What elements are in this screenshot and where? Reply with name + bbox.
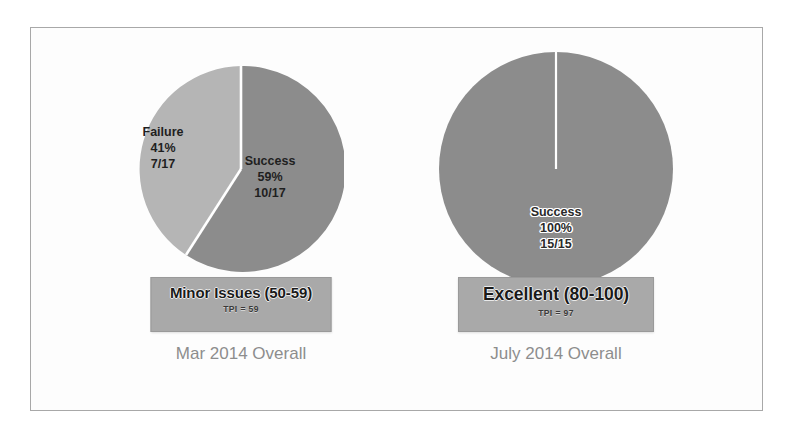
pie-svg-mar-2014 [138, 66, 344, 272]
slide-frame: Failure 41% 7/17 Success 59% 10/17 Minor… [30, 27, 763, 411]
rating-title: Excellent (80-100) [459, 284, 653, 305]
chart-panel-mar-2014: Failure 41% 7/17 Success 59% 10/17 Minor… [91, 28, 391, 410]
chart-panel-july-2014: Success 100% 15/15 Excellent (80-100) TP… [401, 28, 711, 410]
chart-caption-mar-2014: Mar 2014 Overall [176, 344, 306, 364]
rating-title: Minor Issues (50-59) [152, 284, 331, 301]
rating-box-mar-2014: Minor Issues (50-59) TPI = 59 [151, 277, 332, 332]
rating-tpi: TPI = 59 [152, 304, 331, 314]
pie-chart-mar-2014 [138, 66, 344, 272]
pie-svg-july-2014 [439, 52, 673, 286]
chart-caption-july-2014: July 2014 Overall [490, 344, 621, 364]
pie-chart-july-2014 [439, 52, 673, 286]
rating-tpi: TPI = 97 [459, 308, 653, 318]
rating-box-july-2014: Excellent (80-100) TPI = 97 [458, 277, 654, 332]
